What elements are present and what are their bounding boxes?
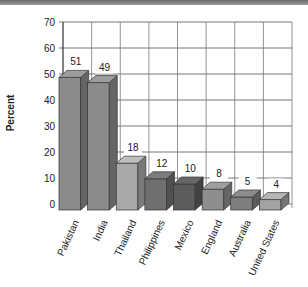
y-tick-label: 20 [44,147,56,158]
x-category-label: Mexico [172,218,196,252]
y-axis-label: Percent [5,94,16,131]
value-label: 49 [99,62,111,73]
bar-india: 49 [88,62,118,210]
x-category-label: Pakistan [55,218,81,257]
y-tick-label: 60 [44,43,56,54]
x-category-label: Australia [226,218,253,258]
value-label: 4 [273,179,279,190]
y-tick-label: 40 [44,95,56,106]
value-label: 8 [216,168,222,179]
y-axis-tick-labels: 010203040506070 [44,17,56,210]
x-category-label: Philippines [137,218,167,266]
bar-australia: 5 [231,176,261,210]
bar-philippines: 12 [145,158,175,210]
x-axis-category-labels: PakistanIndiaThailandPhilippinesMexicoEn… [55,218,282,277]
bar-mexico: 10 [174,163,204,210]
x-category-label: England [199,218,224,256]
bar-england: 8 [202,168,232,210]
value-label: 12 [156,158,168,169]
y-tick-label: 70 [44,17,56,28]
x-category-label: Thailand [112,218,138,257]
y-tick-label: 10 [44,173,56,184]
x-category-label: India [91,218,110,243]
y-tick-label: 50 [44,69,56,80]
value-label: 18 [128,142,140,153]
bar-united-states: 4 [259,179,289,210]
value-label: 5 [245,176,251,187]
y-tick-label: 30 [44,121,56,132]
chart-bars: 5149181210854 [59,56,289,210]
x-category-label: United States [246,218,281,277]
bar-pakistan: 51 [59,56,89,210]
value-label: 51 [70,56,82,67]
bar-chart: 5149181210854 010203040506070 PakistanIn… [0,0,308,287]
value-label: 10 [185,163,197,174]
y-tick-label: 0 [49,199,55,210]
